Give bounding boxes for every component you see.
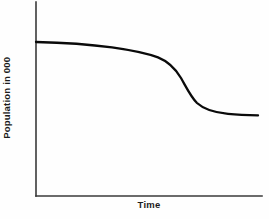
- line-chart-canvas: [0, 0, 269, 219]
- population-decline-curve: [36, 42, 258, 115]
- y-axis-title-text: Population in 000: [2, 57, 12, 139]
- chart-figure: Population in 000 Time: [0, 0, 269, 219]
- x-axis-title: Time: [36, 200, 262, 210]
- y-axis-title: Population in 000: [0, 0, 14, 196]
